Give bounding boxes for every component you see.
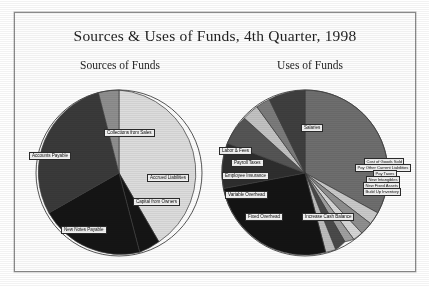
slice-label-payroll-taxes: Payroll Taxes [231,159,264,167]
pie-chart-sources: Collections from Sales Accounts Payable … [31,85,207,261]
slice-label-build-up-inventory: Build Up Inventory [363,188,401,196]
slice-label-fixed-overhead: Fixed Overhead [245,213,283,221]
slice-label-new-notes-payable: New Notes Payable [61,226,107,234]
chart-subtitle-sources: Sources of Funds [37,59,203,71]
slice-label-salaries: Salaries [301,124,323,132]
slice-label-variable-overhead: Variable Overhead [225,191,268,199]
slice-label-labor-and-fees: Labor & Fees [219,147,252,155]
slice-label-collections-from-sales: Collections from Sales [104,129,155,137]
figure-title: Sources & Uses of Funds, 4th Quarter, 19… [15,27,415,45]
slice-label-accounts-payable: Accounts Payable [29,152,71,160]
slice-label-accrued-liabilities: Accrued Liabilities [147,174,189,182]
chart-subtitle-uses: Uses of Funds [227,59,393,71]
slice-label-increase-cash-balance: Increase Cash Balance [302,213,354,221]
slice-label-employee-insurance: Employee Insurance [222,172,269,180]
slice-label-capital-from-owners: Capital from Owners [133,198,180,206]
pie-chart-uses: Salaries Labor & Fees Payroll Taxes Empl… [217,85,393,261]
figure-frame: Sources & Uses of Funds, 4th Quarter, 19… [14,12,416,272]
pie-sources-svg [31,85,207,261]
